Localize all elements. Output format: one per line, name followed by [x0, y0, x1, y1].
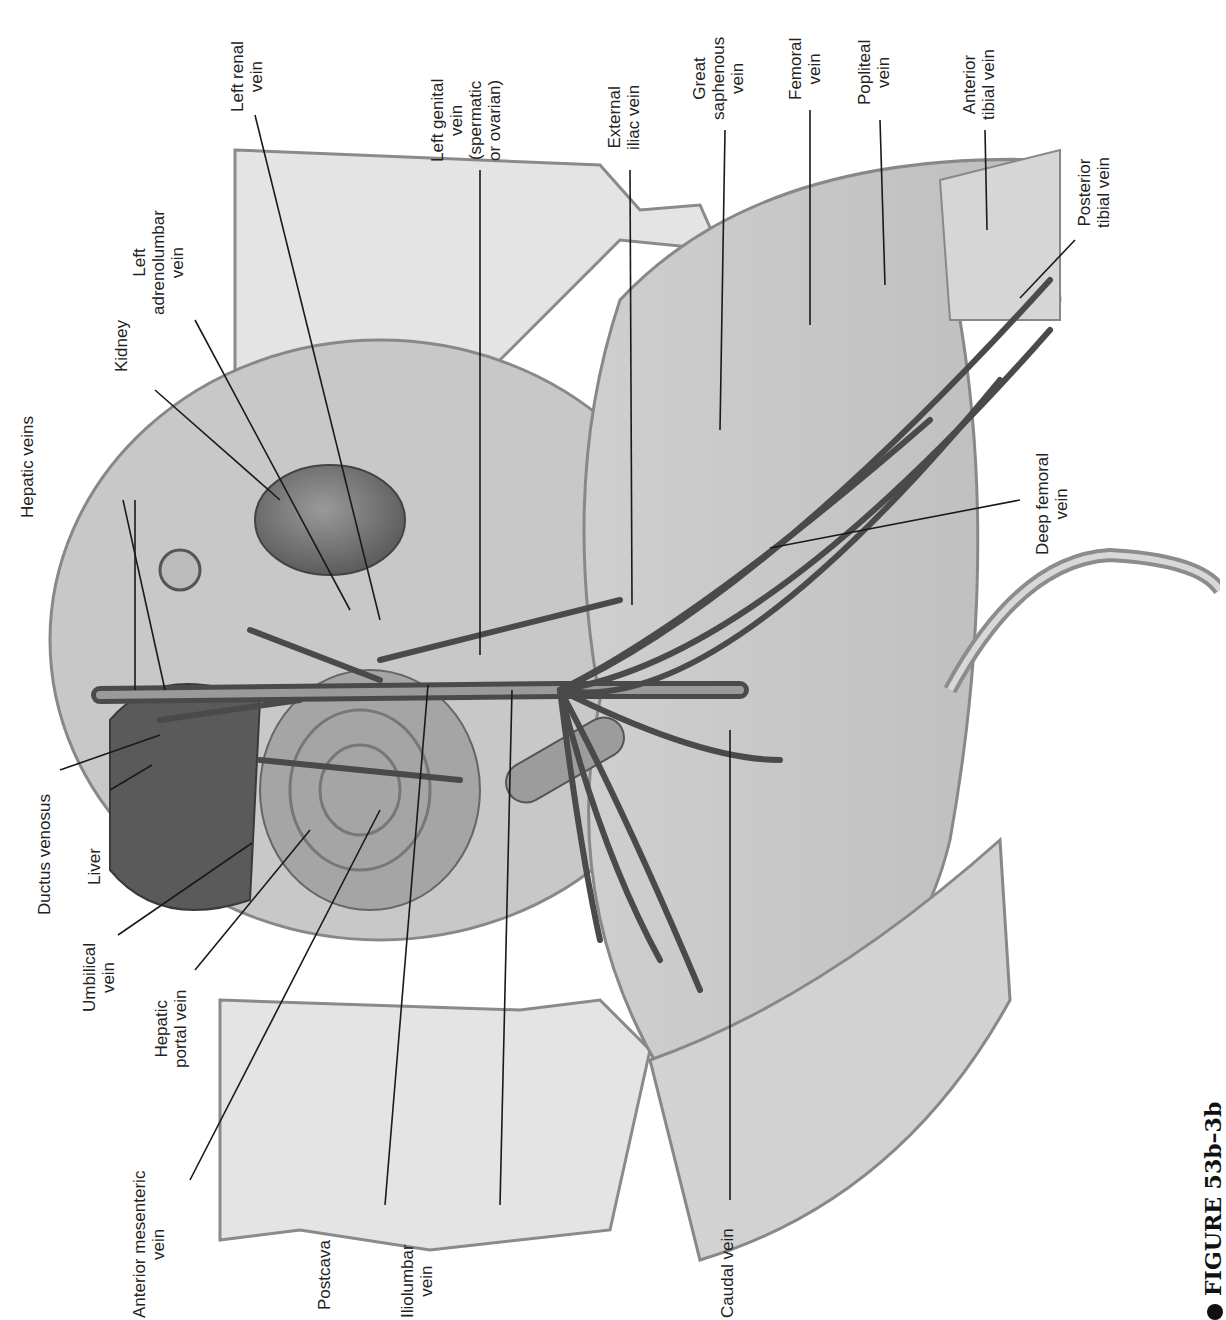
label-postcava: Postcava	[315, 1240, 334, 1310]
label-iliolumbar-vein: Iliolumbar vein	[398, 1244, 436, 1318]
label-femoral-vein: Femoral vein	[786, 38, 824, 100]
label-great-saphenous-vein: Great saphenous vein	[690, 37, 747, 120]
figure-caption: FIGURE 53b–3b	[1200, 1102, 1226, 1320]
label-caudal-vein: Caudal vein	[718, 1228, 737, 1318]
kidney	[255, 465, 405, 575]
label-popliteal-vein: Popliteal vein	[855, 40, 893, 105]
label-liver: Liver	[85, 848, 104, 885]
umbilical-cord	[950, 555, 1220, 690]
label-hepatic-veins: Hepatic veins	[18, 416, 37, 518]
label-deep-femoral-vein: Deep femoral vein	[1033, 453, 1071, 555]
bullet-icon	[1207, 1304, 1223, 1320]
label-anterior-mesenteric-vein: Anterior mesenteric vein	[130, 1171, 168, 1318]
lower-leg	[940, 150, 1060, 320]
label-umbilical-vein: Umbilical vein	[80, 943, 118, 1012]
label-anterior-tibial-vein: Anterior tibial vein	[960, 49, 998, 120]
label-left-genital-vein: Left genital vein (spermatic or ovarian)	[428, 79, 504, 162]
label-ductus-venosus: Ductus venosus	[35, 794, 54, 915]
label-hepatic-portal-vein: Hepatic portal vein	[152, 990, 190, 1068]
label-posterior-tibial-vein: Posterior tibial vein	[1075, 157, 1113, 228]
label-left-adrenolumbar-vein: Left adrenolumbar vein	[130, 210, 187, 315]
skin-flap-lower	[220, 1000, 650, 1250]
label-left-renal-vein: Left renal vein	[228, 41, 266, 112]
intestine	[260, 670, 480, 910]
label-external-iliac-vein: External iliac vein	[605, 85, 643, 150]
label-kidney: Kidney	[112, 320, 131, 372]
